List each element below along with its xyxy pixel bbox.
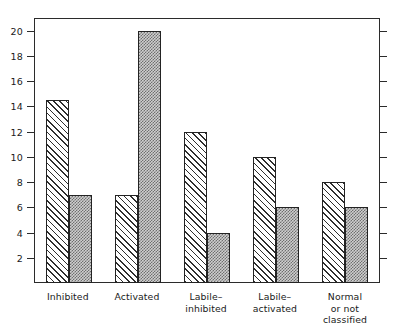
bar-series-1-1 — [46, 100, 69, 283]
bar-series-1-4 — [253, 157, 276, 283]
bar-series-2-4 — [276, 207, 299, 283]
plot-area: 2468101214161820 — [34, 18, 380, 283]
y-tick-mark-right — [380, 258, 387, 259]
y-tick-mark-right — [380, 207, 387, 208]
y-tick-label: 18 — [11, 50, 24, 61]
bar-series-2-1 — [69, 195, 92, 283]
bar-group-1 — [46, 18, 92, 283]
y-tick-mark-left — [27, 157, 34, 158]
y-tick-label: 20 — [11, 25, 24, 36]
bar-series-1-5 — [322, 182, 345, 283]
bar-series-1-2 — [115, 195, 138, 283]
y-tick-mark-left — [27, 132, 34, 133]
bar-group-5 — [322, 18, 368, 283]
y-tick-mark-right — [380, 106, 387, 107]
bar-group-2 — [115, 18, 161, 283]
x-axis-label-2: Activated — [115, 291, 160, 303]
x-axis-label-4: Labile– activated — [253, 291, 297, 314]
y-tick-mark-right — [380, 132, 387, 133]
y-tick-mark-left — [27, 182, 34, 183]
y-tick-label: 2 — [17, 252, 23, 263]
y-tick-mark-left — [27, 258, 34, 259]
y-tick-label: 8 — [17, 177, 23, 188]
x-axis-label-1: Inhibited — [47, 291, 89, 303]
y-tick-label: 6 — [17, 202, 23, 213]
x-axis-label-5: Normal or not classified — [323, 291, 367, 326]
y-tick-mark-left — [27, 31, 34, 32]
y-tick-mark-right — [380, 31, 387, 32]
y-tick-mark-left — [27, 106, 34, 107]
y-tick-mark-left — [27, 81, 34, 82]
y-tick-mark-left — [27, 207, 34, 208]
y-tick-mark-left — [27, 56, 34, 57]
y-tick-mark-right — [380, 157, 387, 158]
bar-group-3 — [184, 18, 230, 283]
y-tick-label: 16 — [11, 76, 24, 87]
bar-chart: 2468101214161820 InhibitedActivatedLabil… — [0, 0, 408, 335]
bar-series-2-5 — [345, 207, 368, 283]
y-tick-label: 10 — [11, 151, 24, 162]
y-tick-mark-right — [380, 56, 387, 57]
y-tick-label: 4 — [17, 227, 23, 238]
y-tick-mark-right — [380, 81, 387, 82]
bar-series-2-2 — [138, 31, 161, 283]
y-tick-mark-left — [27, 233, 34, 234]
x-axis-category-labels: InhibitedActivatedLabile– inhibitedLabil… — [34, 291, 380, 326]
bar-group-4 — [253, 18, 299, 283]
bars-layer — [34, 18, 380, 283]
bar-series-2-3 — [207, 233, 230, 283]
y-tick-mark-right — [380, 182, 387, 183]
x-axis-label-3: Labile– inhibited — [185, 291, 227, 314]
y-tick-label: 14 — [11, 101, 24, 112]
bar-series-1-3 — [184, 132, 207, 283]
y-tick-mark-right — [380, 233, 387, 234]
y-tick-label: 12 — [11, 126, 24, 137]
